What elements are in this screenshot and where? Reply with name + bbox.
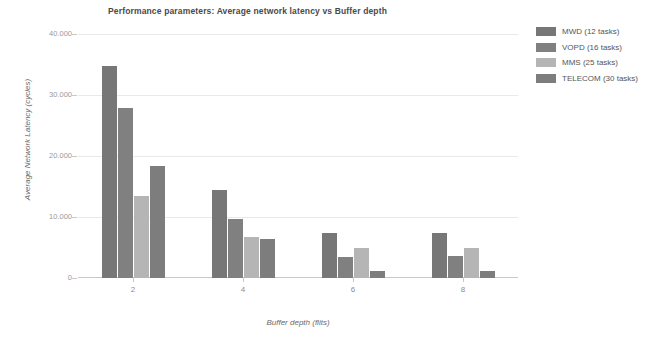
bar[interactable] — [134, 196, 149, 278]
bar[interactable] — [228, 219, 243, 278]
legend-swatch — [536, 58, 556, 67]
y-axis-tick-marks — [0, 34, 80, 278]
legend-label: MMS (25 tasks) — [562, 58, 618, 67]
x-axis-tick-label: 4 — [228, 285, 258, 294]
x-axis-tick-mark — [133, 278, 134, 282]
bar[interactable] — [150, 166, 165, 278]
x-axis-tick-mark — [243, 278, 244, 282]
bar-group — [322, 34, 385, 278]
legend-swatch — [536, 27, 556, 36]
bar[interactable] — [432, 233, 447, 278]
bar-group — [432, 34, 495, 278]
y-axis-tick-mark — [72, 217, 77, 218]
x-axis-tick-label: 6 — [338, 285, 368, 294]
chart-title: Performance parameters: Average network … — [108, 6, 387, 16]
bar[interactable] — [322, 233, 337, 278]
legend-item[interactable]: MWD (12 tasks) — [536, 27, 638, 36]
bar[interactable] — [464, 248, 479, 279]
bar[interactable] — [448, 256, 463, 278]
x-axis-title: Buffer depth (flits) — [78, 318, 518, 327]
x-axis-tick-mark — [353, 278, 354, 282]
legend-swatch — [536, 74, 556, 83]
legend-label: VOPD (16 tasks) — [562, 43, 622, 52]
x-axis: 2468 — [78, 278, 518, 308]
bar-group — [102, 34, 165, 278]
legend-label: MWD (12 tasks) — [562, 27, 619, 36]
x-axis-tick-mark — [463, 278, 464, 282]
legend-item[interactable]: MMS (25 tasks) — [536, 58, 638, 67]
y-axis-tick-mark — [72, 34, 77, 35]
legend-label: TELECOM (30 tasks) — [562, 74, 638, 83]
y-axis-tick-mark — [72, 95, 77, 96]
bar[interactable] — [370, 271, 385, 278]
plot-area — [78, 34, 518, 278]
x-axis-tick-label: 2 — [118, 285, 148, 294]
bar[interactable] — [480, 271, 495, 278]
bar[interactable] — [260, 239, 275, 278]
bar[interactable] — [212, 190, 227, 278]
bar[interactable] — [102, 66, 117, 278]
legend: MWD (12 tasks)VOPD (16 tasks)MMS (25 tas… — [536, 27, 638, 83]
bar[interactable] — [338, 257, 353, 278]
y-axis-tick-mark — [72, 156, 77, 157]
bar-group — [212, 34, 275, 278]
legend-item[interactable]: VOPD (16 tasks) — [536, 43, 638, 52]
bar[interactable] — [354, 248, 369, 279]
x-axis-tick-label: 8 — [448, 285, 478, 294]
legend-item[interactable]: TELECOM (30 tasks) — [536, 74, 638, 83]
bar[interactable] — [244, 237, 259, 278]
legend-swatch — [536, 43, 556, 52]
y-axis-tick-mark — [72, 278, 77, 279]
bar[interactable] — [118, 108, 133, 278]
bars-layer — [78, 34, 518, 278]
chart-container: Performance parameters: Average network … — [0, 0, 660, 344]
